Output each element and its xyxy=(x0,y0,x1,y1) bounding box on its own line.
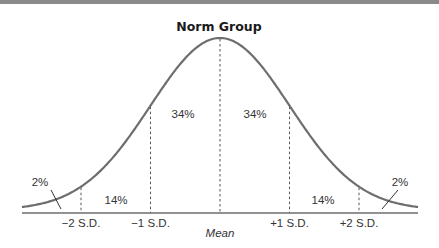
x-tick-label: Mean xyxy=(206,227,235,239)
normal-curve-chart: Norm Group −2 S.D.−1 S.D.Mean+1 S.D.+2 S… xyxy=(0,0,439,248)
x-tick-label: −2 S.D. xyxy=(62,217,101,229)
x-tick-label: −1 S.D. xyxy=(131,217,170,229)
region-percent-label: 2% xyxy=(32,176,49,188)
chart-title: Norm Group xyxy=(176,19,262,34)
x-tick-label: +2 S.D. xyxy=(340,217,379,229)
x-tick-label: +1 S.D. xyxy=(270,217,309,229)
region-percent-label: 14% xyxy=(104,194,127,206)
region-percent-label: 34% xyxy=(171,108,194,120)
region-percent-label: 2% xyxy=(392,176,409,188)
region-percent-label: 34% xyxy=(243,108,266,120)
normal-curve xyxy=(22,38,418,207)
region-percent-label: 14% xyxy=(311,194,334,206)
